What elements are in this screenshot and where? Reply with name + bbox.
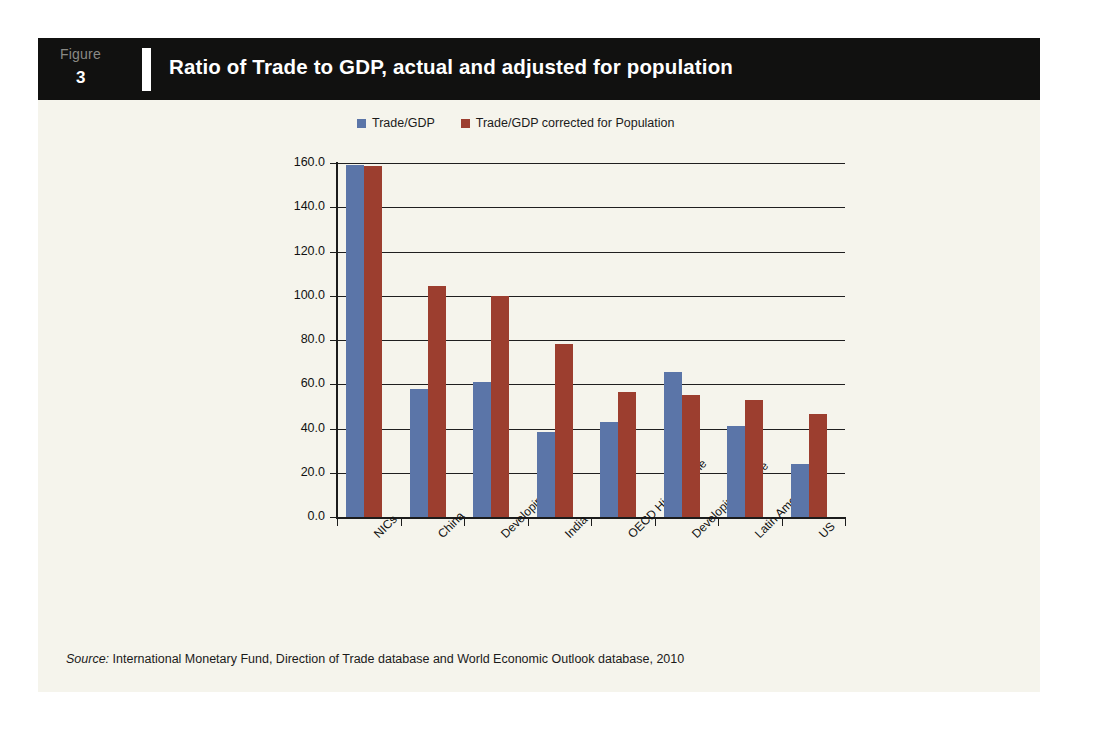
x-axis-tick bbox=[528, 518, 529, 526]
bar[interactable] bbox=[682, 395, 700, 517]
x-axis-tick bbox=[718, 518, 719, 526]
figure-page: Figure 3 Ratio of Trade to GDP, actual a… bbox=[0, 0, 1098, 742]
bar[interactable] bbox=[428, 286, 446, 517]
gridline bbox=[337, 340, 845, 341]
x-axis-tick bbox=[337, 518, 338, 526]
bar[interactable] bbox=[555, 344, 573, 517]
bar[interactable] bbox=[600, 422, 618, 517]
bar[interactable] bbox=[473, 382, 491, 517]
figure-title: Ratio of Trade to GDP, actual and adjust… bbox=[169, 55, 733, 79]
bar[interactable] bbox=[491, 296, 509, 517]
legend-swatch-icon bbox=[461, 119, 470, 128]
x-axis-tick bbox=[401, 518, 402, 526]
figure-panel bbox=[38, 38, 1040, 692]
gridline bbox=[337, 296, 845, 297]
x-axis-tick bbox=[782, 518, 783, 526]
bar[interactable] bbox=[791, 464, 809, 517]
bar[interactable] bbox=[664, 372, 682, 517]
bar[interactable] bbox=[727, 426, 745, 517]
source-text: International Monetary Fund, Direction o… bbox=[109, 652, 684, 666]
y-axis-label: 100.0 bbox=[267, 288, 325, 302]
legend-item[interactable]: Trade/GDP corrected for Population bbox=[461, 116, 675, 130]
y-axis-label: 60.0 bbox=[267, 376, 325, 390]
figure-badge: Figure 3 bbox=[60, 44, 126, 96]
bar[interactable] bbox=[410, 389, 428, 517]
legend-label: Trade/GDP corrected for Population bbox=[476, 116, 675, 130]
legend-label: Trade/GDP bbox=[372, 116, 435, 130]
gridline bbox=[337, 207, 845, 208]
x-axis-tick bbox=[845, 518, 846, 526]
chart-legend: Trade/GDPTrade/GDP corrected for Populat… bbox=[357, 116, 674, 130]
bar[interactable] bbox=[537, 432, 555, 517]
x-axis-tick bbox=[464, 518, 465, 526]
x-axis-tick bbox=[655, 518, 656, 526]
gridline bbox=[337, 163, 845, 164]
source-note: Source: International Monetary Fund, Dir… bbox=[66, 652, 684, 666]
bar[interactable] bbox=[346, 165, 364, 517]
legend-swatch-icon bbox=[357, 119, 366, 128]
gridline bbox=[337, 252, 845, 253]
figure-header-bar: Figure 3 Ratio of Trade to GDP, actual a… bbox=[38, 38, 1040, 100]
figure-label: Figure bbox=[60, 46, 126, 62]
y-axis-line bbox=[336, 162, 338, 518]
bar[interactable] bbox=[809, 414, 827, 517]
bar[interactable] bbox=[364, 166, 382, 517]
figure-number: 3 bbox=[76, 68, 85, 88]
y-axis-label: 20.0 bbox=[267, 465, 325, 479]
y-axis-label: 160.0 bbox=[267, 155, 325, 169]
x-axis-tick bbox=[591, 518, 592, 526]
y-axis-label: 140.0 bbox=[267, 199, 325, 213]
figure-divider bbox=[142, 48, 151, 91]
gridline bbox=[337, 384, 845, 385]
bar[interactable] bbox=[745, 400, 763, 517]
y-axis-label: 80.0 bbox=[267, 332, 325, 346]
legend-item[interactable]: Trade/GDP bbox=[357, 116, 435, 130]
y-axis-label: 40.0 bbox=[267, 421, 325, 435]
source-prefix: Source: bbox=[66, 652, 109, 666]
y-axis-label: 0.0 bbox=[267, 509, 325, 523]
y-axis-label: 120.0 bbox=[267, 244, 325, 258]
bar[interactable] bbox=[618, 392, 636, 517]
